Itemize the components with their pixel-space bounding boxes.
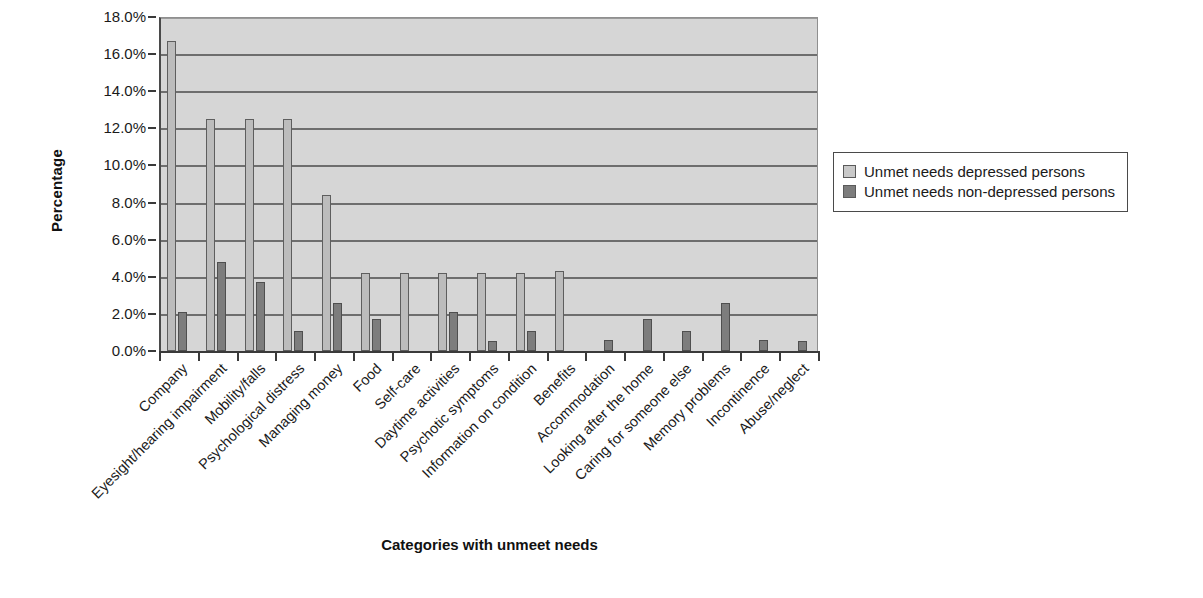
- y-tick-mark: [148, 53, 156, 55]
- y-tick-label: 8.0%: [62, 195, 146, 210]
- bar: [604, 340, 613, 351]
- legend-swatch-icon: [843, 165, 856, 178]
- bar: [798, 341, 807, 351]
- bar: [555, 271, 564, 351]
- y-tick-mark: [148, 90, 156, 92]
- y-tick-label: 18.0%: [62, 9, 146, 24]
- bar: [294, 331, 303, 351]
- bar: [643, 319, 652, 351]
- bar: [438, 273, 447, 351]
- bar: [488, 341, 497, 351]
- figure-caption: [0, 589, 860, 598]
- y-tick-label: 10.0%: [62, 157, 146, 172]
- y-tick-mark: [148, 202, 156, 204]
- chart-figure: Percentage 0.0%2.0%4.0%6.0%8.0%10.0%12.0…: [0, 0, 1203, 598]
- bar: [322, 195, 331, 351]
- x-axis-category-labels: CompanyEyesight/hearing impairmentMobili…: [0, 355, 830, 530]
- bar: [361, 273, 370, 351]
- x-axis-title: Categories with unmeet needs: [159, 536, 820, 553]
- y-tick-label: 4.0%: [62, 269, 146, 284]
- bar: [256, 282, 265, 351]
- plot-area: [159, 17, 818, 351]
- bar: [449, 312, 458, 351]
- y-tick-mark: [148, 276, 156, 278]
- bar: [372, 319, 381, 351]
- x-category-label: Abuse/neglect: [736, 361, 811, 436]
- y-tick-label: 14.0%: [62, 83, 146, 98]
- legend-swatch-icon: [843, 185, 856, 198]
- chart-legend: Unmet needs depressed personsUnmet needs…: [833, 152, 1128, 212]
- bar: [245, 119, 254, 351]
- y-tick-mark: [148, 350, 156, 352]
- legend-item: Unmet needs depressed persons: [843, 163, 1115, 180]
- legend-label: Unmet needs depressed persons: [864, 163, 1085, 180]
- y-tick-mark: [148, 239, 156, 241]
- bar: [333, 303, 342, 351]
- bar: [477, 273, 486, 351]
- y-tick-mark: [148, 164, 156, 166]
- y-tick-label: 2.0%: [62, 306, 146, 321]
- y-tick-label: 16.0%: [62, 46, 146, 61]
- y-axis-ticks: 0.0%2.0%4.0%6.0%8.0%10.0%12.0%14.0%16.0%…: [62, 0, 154, 370]
- legend-label: Unmet needs non-depressed persons: [864, 183, 1115, 200]
- bar: [167, 41, 176, 351]
- x-category-label: Food: [351, 361, 385, 395]
- y-tick-mark: [148, 16, 156, 18]
- bar: [400, 273, 409, 351]
- bar: [527, 331, 536, 351]
- y-tick-label: 6.0%: [62, 232, 146, 247]
- bar: [682, 331, 691, 351]
- bar: [516, 273, 525, 351]
- y-tick-label: 12.0%: [62, 120, 146, 135]
- bar: [759, 340, 768, 351]
- bar: [178, 312, 187, 351]
- bar-group: [161, 18, 817, 351]
- bar: [206, 119, 215, 351]
- bar: [721, 303, 730, 351]
- bar: [283, 119, 292, 351]
- y-tick-mark: [148, 127, 156, 129]
- legend-item: Unmet needs non-depressed persons: [843, 183, 1115, 200]
- y-tick-mark: [148, 313, 156, 315]
- bar: [217, 262, 226, 351]
